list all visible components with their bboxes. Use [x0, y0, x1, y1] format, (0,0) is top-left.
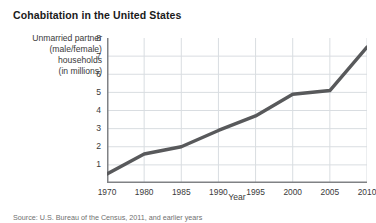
- line-chart-svg: [107, 38, 367, 183]
- plot-area: [107, 38, 367, 183]
- y-axis-label-line-3: households: [10, 55, 102, 66]
- y-axis-tick-label: 3: [87, 123, 101, 133]
- horizontal-gridlines: [107, 38, 367, 165]
- x-axis-label: Year: [107, 192, 367, 202]
- y-axis-tick-label: 4: [87, 105, 101, 115]
- y-axis-label-line-2: (male/female): [10, 44, 102, 55]
- y-axis-tick-label: 1: [87, 159, 101, 169]
- y-axis-tick-label: 5: [87, 87, 101, 97]
- source-note: Source: U.S. Bureau of the Census, 2011,…: [13, 213, 202, 222]
- chart-title: Cohabitation in the United States: [13, 9, 181, 21]
- y-axis-label-line-4: (in millions): [10, 66, 102, 77]
- y-axis-label-line-1: Unmarried partner: [10, 33, 102, 44]
- y-axis-tick-label: 2: [87, 141, 101, 151]
- y-axis-label: Unmarried partner (male/female) househol…: [10, 33, 102, 77]
